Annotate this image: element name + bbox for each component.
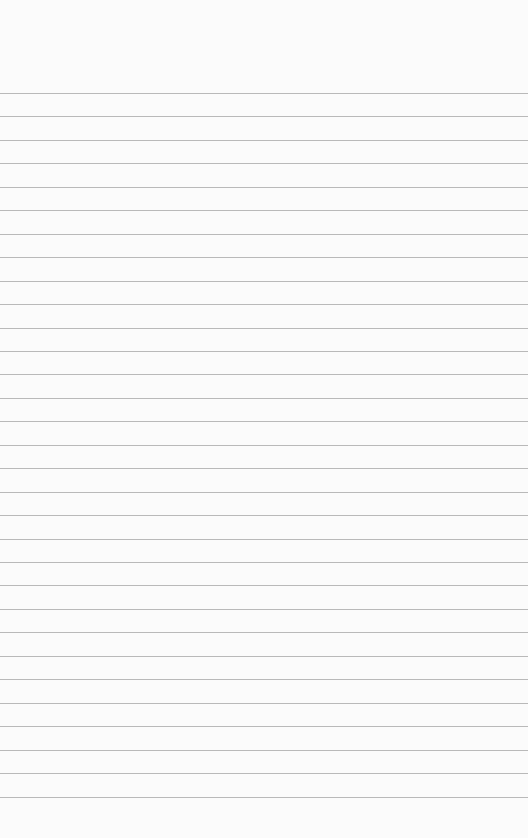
- ruled-line: [0, 539, 528, 540]
- ruled-line: [0, 257, 528, 258]
- ruled-line: [0, 585, 528, 586]
- ruled-line: [0, 656, 528, 657]
- ruled-line: [0, 703, 528, 704]
- ruled-line: [0, 140, 528, 141]
- ruled-line: [0, 445, 528, 446]
- ruled-line: [0, 421, 528, 422]
- ruled-line: [0, 562, 528, 563]
- lined-paper: [0, 0, 528, 838]
- ruled-line: [0, 93, 528, 94]
- ruled-line: [0, 609, 528, 610]
- ruled-line: [0, 234, 528, 235]
- ruled-line: [0, 515, 528, 516]
- ruled-line: [0, 492, 528, 493]
- ruled-line: [0, 750, 528, 751]
- ruled-line: [0, 632, 528, 633]
- ruled-line: [0, 328, 528, 329]
- ruled-line: [0, 773, 528, 774]
- ruled-line: [0, 398, 528, 399]
- ruled-line: [0, 281, 528, 282]
- ruled-line: [0, 468, 528, 469]
- ruled-line: [0, 163, 528, 164]
- ruled-line: [0, 210, 528, 211]
- ruled-line: [0, 726, 528, 727]
- ruled-line: [0, 351, 528, 352]
- ruled-line: [0, 304, 528, 305]
- ruled-line: [0, 187, 528, 188]
- ruled-line: [0, 679, 528, 680]
- ruled-line: [0, 374, 528, 375]
- ruled-line: [0, 797, 528, 798]
- ruled-line: [0, 116, 528, 117]
